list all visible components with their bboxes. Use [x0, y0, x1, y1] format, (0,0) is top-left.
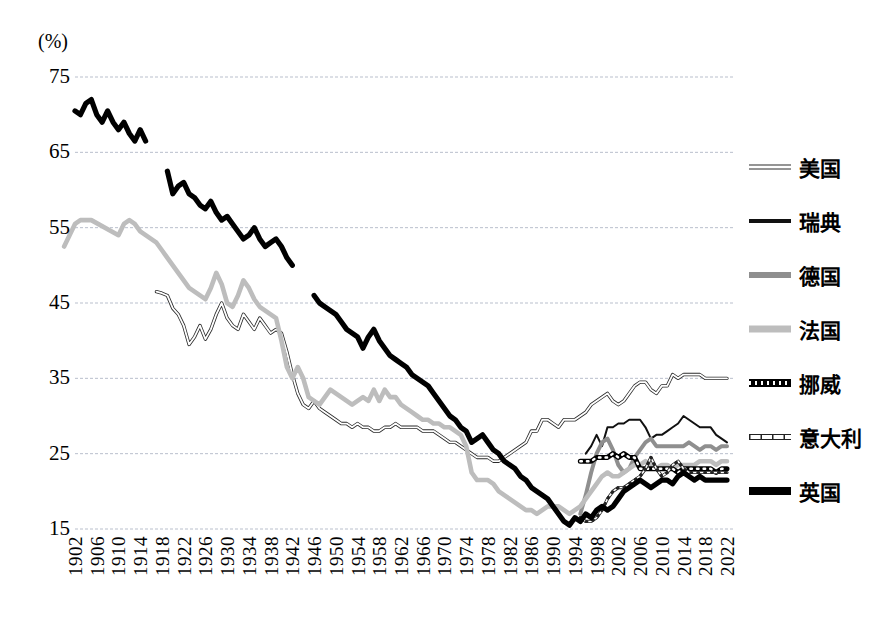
- legend-swatch-icon: [748, 374, 792, 392]
- x-tick-label: 1926: [195, 536, 217, 576]
- x-tick-label: 1970: [434, 536, 456, 576]
- legend-item-label: 英国: [799, 476, 841, 506]
- legend-item-挪威[interactable]: 挪威: [748, 356, 873, 410]
- x-tick-label: 1954: [348, 536, 370, 576]
- x-tick-label: 1918: [152, 536, 174, 576]
- series-lines: [64, 100, 727, 526]
- x-tick-label: 1938: [261, 536, 283, 576]
- legend-item-英国[interactable]: 英国: [748, 464, 873, 518]
- x-tick-label: 2010: [652, 536, 674, 576]
- x-tick-label: 1942: [282, 536, 304, 576]
- legend-item-美国[interactable]: 美国: [748, 140, 873, 194]
- y-tick-label: 35: [36, 367, 70, 388]
- legend-item-label: 意大利: [799, 422, 862, 452]
- x-tick-label: 1982: [500, 536, 522, 576]
- x-tick-label: 1950: [326, 536, 348, 576]
- y-tick-label: 75: [36, 66, 70, 87]
- series-line-美国: [157, 292, 728, 462]
- x-tick-label: 1958: [369, 536, 391, 576]
- x-tick-label: 1974: [456, 536, 478, 576]
- chart-container: (%) 75655545352515 190219061910191419181…: [0, 0, 875, 622]
- legend-swatch-icon: [748, 158, 792, 176]
- y-tick-label: 45: [36, 292, 70, 313]
- legend-swatch-icon: [748, 266, 792, 284]
- chart-legend: 美国瑞典德国法国挪威意大利英国: [748, 140, 873, 518]
- y-tick-label: 65: [36, 141, 70, 162]
- legend-item-德国[interactable]: 德国: [748, 248, 873, 302]
- y-tick-label: 55: [36, 217, 70, 238]
- legend-item-label: 德国: [799, 260, 841, 290]
- x-tick-label: 1978: [478, 536, 500, 576]
- legend-item-label: 美国: [799, 152, 841, 182]
- legend-item-label: 挪威: [799, 368, 841, 398]
- x-tick-label: 1946: [304, 536, 326, 576]
- x-tick-label: 2002: [608, 536, 630, 576]
- x-tick-label: 2014: [674, 536, 696, 576]
- legend-item-法国[interactable]: 法国: [748, 302, 873, 356]
- x-tick-label: 1998: [587, 536, 609, 576]
- x-tick-label: 1990: [543, 536, 565, 576]
- x-tick-label: 2022: [717, 536, 739, 576]
- x-tick-label: 1914: [130, 536, 152, 576]
- legend-item-label: 瑞典: [799, 206, 841, 236]
- x-tick-label: 2018: [695, 536, 717, 576]
- chart-plot-area: [0, 0, 875, 622]
- series-line-英国: [314, 295, 727, 525]
- x-tick-label: 1966: [413, 536, 435, 576]
- x-tick-label: 1906: [87, 536, 109, 576]
- x-tick-label: 1962: [391, 536, 413, 576]
- legend-item-意大利[interactable]: 意大利: [748, 410, 873, 464]
- series-line-英国: [167, 171, 292, 265]
- x-tick-label: 1922: [174, 536, 196, 576]
- legend-swatch-icon: [748, 428, 792, 446]
- series-line-法国: [64, 220, 727, 514]
- x-tick-label: 1934: [239, 536, 261, 576]
- x-tick-label: 1902: [65, 536, 87, 576]
- legend-swatch-icon: [748, 320, 792, 338]
- x-tick-label: 1910: [108, 536, 130, 576]
- y-tick-label: 25: [36, 443, 70, 464]
- x-tick-label: 1930: [217, 536, 239, 576]
- legend-item-瑞典[interactable]: 瑞典: [748, 194, 873, 248]
- legend-item-label: 法国: [799, 314, 841, 344]
- x-tick-label: 1994: [565, 536, 587, 576]
- series-line-英国: [75, 100, 146, 141]
- legend-swatch-icon: [748, 212, 792, 230]
- x-tick-label: 1986: [521, 536, 543, 576]
- legend-swatch-icon: [748, 482, 792, 500]
- x-tick-label: 2006: [630, 536, 652, 576]
